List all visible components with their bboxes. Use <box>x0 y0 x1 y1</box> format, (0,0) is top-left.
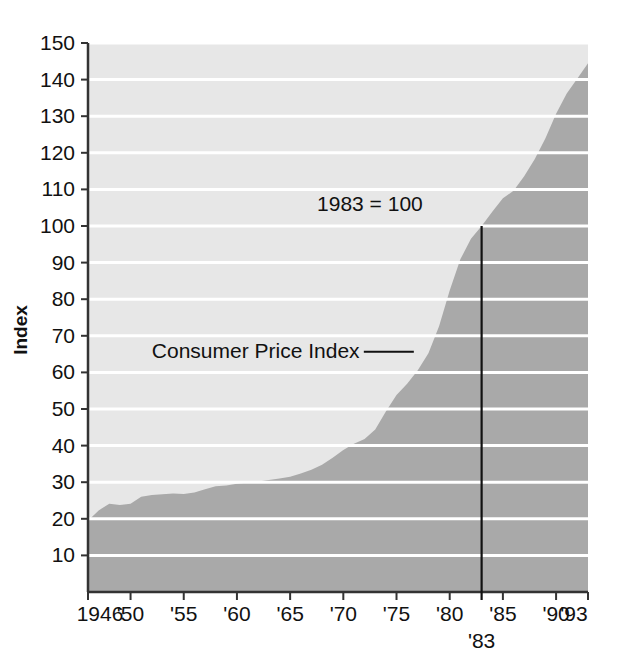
y-axis-tick-label: 110 <box>42 177 75 200</box>
y-axis-tick-label: 20 <box>52 507 75 530</box>
y-axis-tick-label: 70 <box>52 324 75 347</box>
y-axis-tick-label: 50 <box>52 397 75 420</box>
y-axis-tick-label: 140 <box>40 68 75 91</box>
y-axis-tick-label: 100 <box>40 214 75 237</box>
x-axis-tick-label: '60 <box>223 602 250 625</box>
reference-line-label: '83 <box>468 629 495 652</box>
y-axis-tick-label: 40 <box>52 434 75 457</box>
x-axis-tick-label: '93 <box>560 602 587 625</box>
x-axis-tick-label: '85 <box>489 602 516 625</box>
series-callout-label: Consumer Price Index <box>152 339 360 362</box>
y-axis-title: Index <box>10 305 31 355</box>
cpi-area-chart: 102030405060708090100110120130140150 194… <box>0 0 622 669</box>
y-axis-tick-label: 30 <box>52 470 75 493</box>
y-axis-tick-label: 130 <box>40 104 75 127</box>
y-axis-tick-label: 60 <box>52 360 75 383</box>
y-axis: 102030405060708090100110120130140150 <box>40 31 88 566</box>
chart-canvas: 102030405060708090100110120130140150 194… <box>0 0 622 669</box>
y-axis-tick-label: 80 <box>52 287 75 310</box>
y-axis-tick-label: 10 <box>52 543 75 566</box>
x-axis-tick-label: '80 <box>436 602 463 625</box>
x-axis-tick-label: '55 <box>170 602 197 625</box>
x-axis-tick-label: '65 <box>276 602 303 625</box>
base-year-note: 1983 = 100 <box>317 192 423 215</box>
x-axis-tick-label: '70 <box>330 602 357 625</box>
y-axis-tick-label: 150 <box>40 31 75 54</box>
x-axis-tick-label: '75 <box>383 602 410 625</box>
x-axis: 1946'50'55'60'65'70'75'80'85'90'93 <box>77 592 588 625</box>
x-axis-tick-label: '50 <box>117 602 144 625</box>
y-axis-tick-label: 90 <box>52 251 75 274</box>
y-axis-tick-label: 120 <box>40 141 75 164</box>
